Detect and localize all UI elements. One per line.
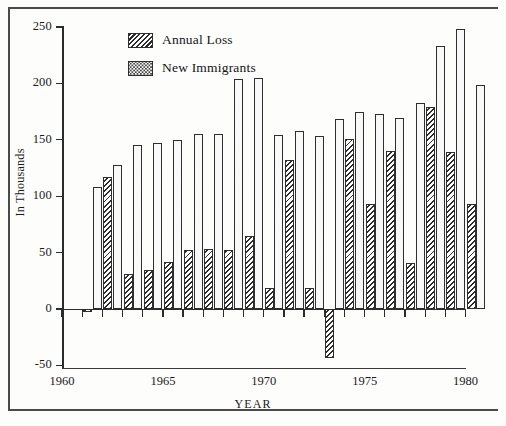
bar-annual-loss <box>386 151 395 309</box>
x-axis-tick <box>102 310 103 317</box>
bar-new-immigrants <box>295 131 304 309</box>
x-axis-tick <box>263 310 264 317</box>
y-axis-tick <box>56 365 63 366</box>
bar-new-immigrants <box>254 78 263 309</box>
x-axis-tick <box>344 310 345 317</box>
x-axis-tick-label: 1970 <box>240 375 288 388</box>
bar-new-immigrants <box>476 85 485 309</box>
bar-annual-loss <box>285 160 294 309</box>
x-axis-tick <box>283 310 284 317</box>
bar-annual-loss <box>426 107 435 309</box>
legend-item-annual-loss: Annual Loss <box>128 29 256 51</box>
y-axis-tick-label: 250 <box>33 20 52 32</box>
x-axis-tick-label: 1960 <box>38 375 86 388</box>
x-axis-tick <box>61 310 62 317</box>
x-axis-tick <box>445 310 446 317</box>
y-axis-tick <box>56 139 63 140</box>
y-axis-tick-label: 50 <box>39 246 52 258</box>
bar-annual-loss <box>345 139 354 309</box>
bar-annual-loss <box>144 270 153 309</box>
bar-new-immigrants <box>274 135 283 309</box>
figure-container: 250200150100500-50 19601965197019751980 … <box>0 0 506 426</box>
bar-annual-loss <box>245 236 254 309</box>
y-axis-tick <box>56 83 63 84</box>
x-axis-tick <box>384 310 385 317</box>
chart-legend: Annual Loss New Immigrants <box>128 29 256 85</box>
bar-new-immigrants <box>173 140 182 309</box>
bar-new-immigrants <box>194 134 203 309</box>
x-axis-baseline-rule <box>62 368 466 369</box>
x-axis-tick <box>122 310 123 317</box>
y-axis-tick-label: -50 <box>35 358 52 370</box>
x-axis-tick <box>324 310 325 317</box>
x-axis-tick <box>425 310 426 317</box>
bar-chart-plot: 250200150100500-50 19601965197019751980 … <box>0 0 506 426</box>
y-axis-tick <box>56 26 63 27</box>
bar-new-immigrants <box>214 134 223 309</box>
bar-new-immigrants <box>335 119 344 309</box>
bar-new-immigrants <box>375 114 384 309</box>
y-axis-tick <box>56 196 63 197</box>
bar-new-immigrants <box>113 165 122 309</box>
bar-new-immigrants <box>133 145 142 309</box>
x-axis-tick <box>203 310 204 317</box>
x-axis-tick <box>364 310 365 317</box>
bar-annual-loss <box>164 262 173 309</box>
bar-new-immigrants <box>153 143 162 309</box>
x-axis-tick-label: 1975 <box>341 375 389 388</box>
bar-new-immigrants <box>355 112 364 309</box>
y-axis-tick-label: 150 <box>33 133 52 145</box>
legend-label-new-immigrants: New Immigrants <box>162 60 256 76</box>
x-axis-tick-label: 1980 <box>442 375 490 388</box>
bar-annual-loss <box>224 250 233 309</box>
x-axis-tick <box>303 310 304 317</box>
bar-new-immigrants <box>416 103 425 309</box>
legend-swatch-new-immigrants-icon <box>128 61 153 76</box>
bar-new-immigrants <box>315 136 324 309</box>
y-axis-tick-label: 0 <box>46 302 52 314</box>
bar-annual-loss <box>305 288 314 309</box>
bar-annual-loss <box>446 152 455 309</box>
legend-label-annual-loss: Annual Loss <box>162 32 233 48</box>
legend-swatch-annual-loss-icon <box>128 33 153 48</box>
y-axis-line <box>62 26 64 369</box>
x-axis-tick <box>465 310 466 317</box>
bar-annual-loss <box>204 249 213 309</box>
x-axis-title: YEAR <box>0 397 506 412</box>
bar-annual-loss <box>184 250 193 309</box>
y-axis-tick-label: 200 <box>33 76 52 88</box>
y-axis-title: In Thousands <box>13 123 28 243</box>
x-axis-tick <box>182 310 183 317</box>
x-axis-tick <box>142 310 143 317</box>
x-axis-tick <box>162 310 163 317</box>
y-axis-tick <box>56 252 63 253</box>
bar-annual-loss <box>265 288 274 309</box>
x-axis-tick <box>82 310 83 317</box>
bar-new-immigrants <box>234 79 243 309</box>
bar-annual-loss <box>406 263 415 309</box>
bar-new-immigrants <box>93 187 102 309</box>
bar-new-immigrants <box>395 118 404 309</box>
bar-annual-loss <box>124 274 133 309</box>
legend-item-new-immigrants: New Immigrants <box>128 57 256 79</box>
bar-new-immigrants <box>456 29 465 309</box>
x-axis-tick <box>404 310 405 317</box>
y-axis-tick-label: 100 <box>33 189 52 201</box>
x-axis-tick-label: 1965 <box>139 375 187 388</box>
bar-annual-loss <box>103 177 112 309</box>
x-axis-tick <box>243 310 244 317</box>
bar-new-immigrants <box>436 46 445 309</box>
x-axis-tick <box>223 310 224 317</box>
bar-annual-loss <box>366 204 375 309</box>
bar-annual-loss <box>325 309 334 358</box>
bar-annual-loss <box>467 204 476 309</box>
